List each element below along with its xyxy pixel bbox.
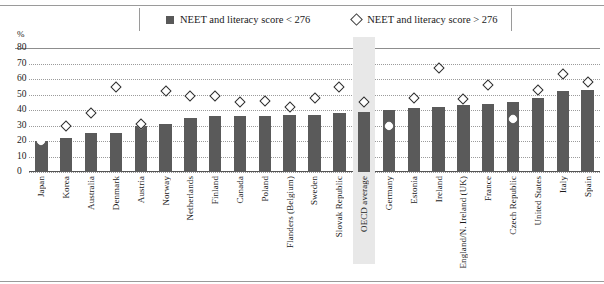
- bar[interactable]: [209, 116, 221, 172]
- category-label-text: France: [483, 176, 493, 201]
- y-axis-tick-label: 80: [17, 43, 39, 53]
- category-label-text: Czech Republic: [508, 176, 518, 235]
- diamond-marker[interactable]: [259, 95, 270, 106]
- y-axis-tick-label: 50: [17, 90, 39, 100]
- category-label-text: Poland: [260, 176, 270, 202]
- bar[interactable]: [507, 102, 519, 172]
- legend-item-neet-below: NEET and literacy score < 276: [166, 14, 310, 25]
- y-axis-tick-label: 10: [17, 152, 39, 162]
- x-axis-category-label: Australia: [79, 176, 104, 276]
- bar[interactable]: [383, 110, 395, 172]
- x-axis-category-label: Japan: [29, 176, 54, 276]
- x-axis-category-label: Netherlands: [178, 176, 203, 276]
- category-label-text: Estonia: [409, 176, 419, 204]
- category-label-text: Japan: [36, 176, 46, 197]
- y-axis-tick-label: 30: [17, 121, 39, 131]
- bar[interactable]: [60, 138, 72, 172]
- category-label-text: Ireland: [434, 176, 444, 202]
- bar[interactable]: [581, 90, 593, 172]
- y-axis-tick-label: 70: [17, 59, 39, 69]
- category-label-text: Flanders (Belgium): [285, 176, 295, 248]
- category-label-text: Finland: [210, 176, 220, 204]
- x-axis-category-label: Flanders (Belgium): [277, 176, 302, 276]
- y-axis-unit: %: [17, 29, 25, 39]
- bar[interactable]: [85, 133, 97, 172]
- category-label-text: United States: [533, 176, 543, 226]
- x-axis-category-label: OECD average: [352, 176, 377, 276]
- open-diamond-icon: [350, 13, 363, 26]
- x-axis-category-labels: JapanKoreaAustraliaDenmarkAustriaNorwayN…: [29, 176, 600, 276]
- bar[interactable]: [358, 112, 370, 172]
- category-label-text: Canada: [235, 176, 245, 204]
- x-axis-category-label: Germany: [377, 176, 402, 276]
- bar[interactable]: [283, 115, 295, 172]
- diamond-marker[interactable]: [234, 97, 245, 108]
- gridline: [29, 172, 600, 173]
- y-axis-tick-label: 20: [17, 136, 39, 146]
- bar[interactable]: [184, 118, 196, 172]
- category-label-text: Australia: [86, 176, 96, 210]
- x-axis-category-label: Finland: [203, 176, 228, 276]
- bar[interactable]: [457, 105, 469, 172]
- chart-figure: NEET and literacy score < 276 NEET and l…: [0, 0, 604, 284]
- y-axis-tick-label: 60: [17, 74, 39, 84]
- category-label-text: Korea: [61, 176, 71, 199]
- diamond-marker[interactable]: [334, 81, 345, 92]
- x-axis-category-label: Denmark: [103, 176, 128, 276]
- bar[interactable]: [135, 126, 147, 173]
- chart-legend: NEET and literacy score < 276 NEET and l…: [139, 8, 512, 31]
- category-label-text: OECD average: [359, 176, 369, 232]
- x-axis-category-label: Italy: [550, 176, 575, 276]
- filled-square-icon: [166, 16, 174, 24]
- gridline: [29, 79, 600, 80]
- bar[interactable]: [557, 91, 569, 172]
- diamond-marker[interactable]: [61, 120, 72, 131]
- x-axis-category-label: Slovak Republic: [327, 176, 352, 276]
- plot-area: [29, 48, 600, 172]
- x-axis-category-label: United States: [526, 176, 551, 276]
- category-label-text: Germany: [384, 176, 394, 210]
- bottom-divider: [0, 281, 604, 282]
- bar[interactable]: [259, 116, 271, 172]
- bar[interactable]: [159, 124, 171, 172]
- x-axis-category-label: Korea: [54, 176, 79, 276]
- diamond-marker[interactable]: [210, 90, 221, 101]
- gridline: [29, 64, 600, 65]
- bar[interactable]: [532, 98, 544, 172]
- category-label-text: Netherlands: [185, 176, 195, 221]
- x-axis-category-label: Spain: [575, 176, 600, 276]
- category-label-text: Slovak Republic: [334, 176, 344, 237]
- bar[interactable]: [333, 113, 345, 172]
- bar[interactable]: [110, 133, 122, 172]
- bar[interactable]: [482, 104, 494, 172]
- legend-label-neet-below: NEET and literacy score < 276: [180, 14, 310, 25]
- x-axis-category-label: Canada: [228, 176, 253, 276]
- bar[interactable]: [234, 116, 246, 172]
- category-label-text: Austria: [136, 176, 146, 203]
- x-axis-category-label: Austria: [128, 176, 153, 276]
- diamond-marker[interactable]: [110, 81, 121, 92]
- x-axis-category-label: England/N. Ireland (UK): [451, 176, 476, 276]
- y-axis-tick-label: 40: [17, 105, 39, 115]
- category-label-text: Norway: [161, 176, 171, 206]
- category-label-text: England/N. Ireland (UK): [458, 176, 468, 269]
- category-label-text: Denmark: [111, 176, 121, 210]
- bar[interactable]: [308, 115, 320, 172]
- x-axis-category-label: Czech Republic: [501, 176, 526, 276]
- category-label-text: Italy: [558, 176, 568, 193]
- x-axis-category-label: Sweden: [302, 176, 327, 276]
- x-axis-category-label: Poland: [252, 176, 277, 276]
- x-axis-category-label: Estonia: [401, 176, 426, 276]
- bar[interactable]: [432, 107, 444, 172]
- diamond-marker[interactable]: [483, 80, 494, 91]
- x-axis-category-label: Ireland: [426, 176, 451, 276]
- category-label-text: Sweden: [309, 176, 319, 205]
- x-axis-category-label: Norway: [153, 176, 178, 276]
- bar[interactable]: [408, 108, 420, 172]
- diamond-marker[interactable]: [185, 90, 196, 101]
- x-axis-category-label: France: [476, 176, 501, 276]
- legend-item-neet-above: NEET and literacy score > 276: [352, 14, 497, 25]
- category-label-text: Spain: [583, 176, 593, 197]
- legend-label-neet-above: NEET and literacy score > 276: [367, 14, 497, 25]
- top-divider: [0, 5, 604, 6]
